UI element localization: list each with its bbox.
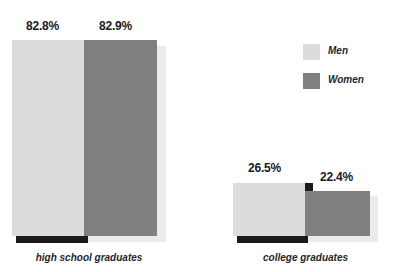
legend-swatch-women-icon xyxy=(303,73,320,89)
bar-women-college xyxy=(305,191,370,236)
legend-label-men: Men xyxy=(328,45,348,56)
value-label-women-college: 22.4% xyxy=(320,170,353,184)
category-label-high-school: high school graduates xyxy=(0,252,178,263)
bar-chart: 82.8% 82.9% high school graduates 26.5% … xyxy=(0,0,395,272)
legend-label-women: Women xyxy=(328,74,364,85)
legend-swatch-men-icon xyxy=(303,44,320,60)
value-label-women-high-school: 82.9% xyxy=(99,19,132,33)
bar-women-high-school xyxy=(84,40,157,236)
bar-men-college xyxy=(233,183,305,236)
value-label-men-college: 26.5% xyxy=(248,161,281,175)
group2-men-drop-shadow xyxy=(237,236,308,243)
group1-glow-right xyxy=(157,46,166,241)
group2-glow-bottom xyxy=(305,236,378,242)
category-label-college: college graduates xyxy=(228,252,383,263)
group1-glow-bottom xyxy=(84,236,166,242)
bar-men-high-school xyxy=(12,40,84,236)
value-label-men-high-school: 82.8% xyxy=(26,19,59,33)
group2-glow-right xyxy=(370,196,378,241)
group1-men-drop-shadow xyxy=(16,236,88,243)
